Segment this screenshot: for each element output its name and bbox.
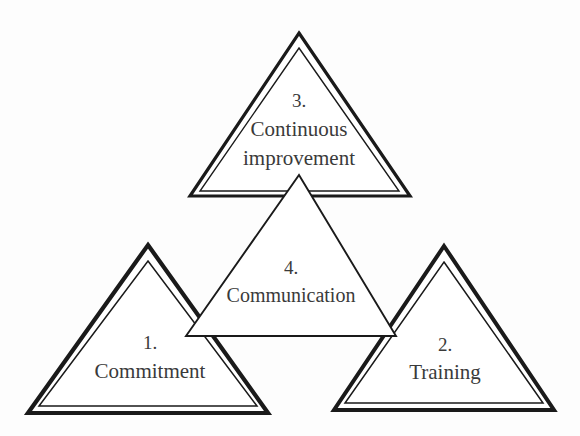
- triangle-framework-diagram: 3. Continuous improvement 1. Commitment …: [0, 0, 580, 436]
- triangle-training-label-line1: Training: [409, 360, 481, 384]
- triangle-communication-outline: [186, 175, 396, 336]
- triangle-commitment-label-line1: Commitment: [95, 359, 206, 383]
- triangle-communication[interactable]: 4. Communication: [186, 175, 396, 336]
- triangle-communication-number: 4.: [284, 257, 298, 278]
- triangle-continuous-improvement-label-line1: Continuous: [251, 117, 348, 141]
- triangle-commitment-number: 1.: [143, 332, 157, 353]
- triangle-communication-label-line1: Communication: [227, 284, 356, 306]
- triangle-continuous-improvement[interactable]: 3. Continuous improvement: [190, 33, 410, 196]
- diagram-canvas: 3. Continuous improvement 1. Commitment …: [0, 0, 580, 436]
- triangle-continuous-improvement-label-line2: improvement: [243, 146, 355, 170]
- triangle-continuous-improvement-number: 3.: [292, 90, 306, 111]
- triangle-training-number: 2.: [438, 334, 452, 355]
